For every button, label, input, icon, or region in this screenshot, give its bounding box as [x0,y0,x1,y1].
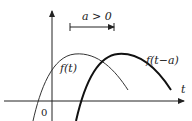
shifted-curve-label: f(t−a) [145,54,179,67]
shift-diagram: a > 0 f(t) f(t−a) t 0 [0,0,192,121]
original-curve-label: f(t) [59,62,77,75]
origin-label: 0 [41,107,47,118]
x-axis-label: t [181,83,186,96]
shift-label: a > 0 [82,10,112,23]
